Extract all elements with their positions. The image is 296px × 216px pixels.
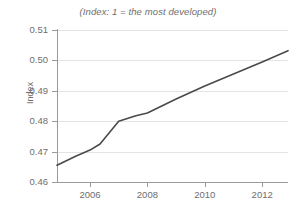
- series-line-index: [57, 51, 288, 166]
- x-tick-mark: [147, 183, 148, 187]
- y-tick-label: 0.46: [0, 176, 48, 187]
- x-axis-line: [57, 182, 288, 183]
- y-tick-label: 0.50: [0, 54, 48, 65]
- y-tick-mark: [52, 182, 57, 183]
- x-tick-label: 2012: [242, 189, 282, 200]
- y-tick-label: 0.47: [0, 146, 48, 157]
- x-tick-mark: [205, 183, 206, 187]
- x-tick-label: 2008: [127, 189, 167, 200]
- data-series-plot: [57, 30, 288, 182]
- x-tick-label: 2010: [185, 189, 225, 200]
- y-tick-label: 0.49: [0, 85, 48, 96]
- y-tick-label: 0.51: [0, 24, 48, 35]
- chart-container: (Index: 1 = the most developed) Index 0.…: [0, 0, 296, 216]
- x-tick-label: 2006: [70, 189, 110, 200]
- y-tick-label: 0.48: [0, 115, 48, 126]
- x-tick-mark: [262, 183, 263, 187]
- x-tick-mark: [90, 183, 91, 187]
- chart-title: (Index: 1 = the most developed): [0, 6, 296, 17]
